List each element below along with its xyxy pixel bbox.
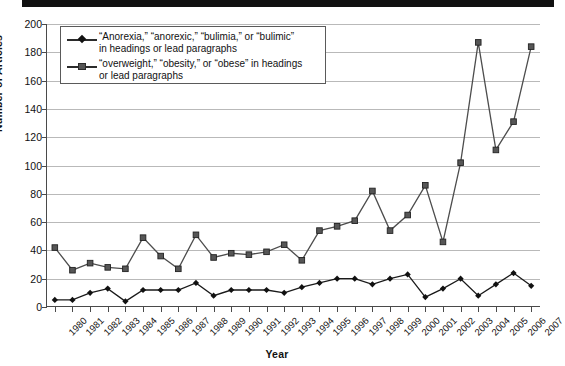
- x-tick-label: 1993: [295, 315, 318, 338]
- legend-overweight-line1: “overweight,” “obesity,” or “obese” in h…: [99, 58, 302, 70]
- gridline: [47, 194, 540, 195]
- legend-anorexia-line2: in headings or lead paragraphs: [99, 43, 294, 55]
- x-tick-label: 1982: [101, 315, 124, 338]
- gridline: [47, 137, 540, 138]
- y-tick-label: 80: [4, 188, 42, 200]
- gridline: [47, 166, 540, 167]
- y-tick-mark: [42, 194, 47, 195]
- top-black-band: [22, 0, 554, 7]
- x-tick-label: 1991: [260, 315, 283, 338]
- y-tick-label: 120: [4, 131, 42, 143]
- y-tick-label: 140: [4, 103, 42, 115]
- x-tick-label: 1988: [207, 315, 230, 338]
- x-tick-label: 2007: [542, 315, 565, 338]
- legend-entry-anorexia-text: “Anorexia,” “anorexic,” “bulimia,” or “b…: [99, 31, 294, 55]
- y-axis-title: Number of Articles: [0, 35, 4, 132]
- line-square-marker-icon: [65, 60, 99, 73]
- y-tick-label: 160: [4, 75, 42, 87]
- x-tick-label: 2004: [489, 315, 512, 338]
- gridline: [47, 24, 540, 25]
- x-tick-label: 1996: [348, 315, 371, 338]
- legend-entry-overweight-text: “overweight,” “obesity,” or “obese” in h…: [99, 58, 302, 82]
- legend-entry-anorexia: “Anorexia,” “anorexic,” “bulimia,” or “b…: [65, 31, 320, 55]
- y-axis-tick-labels: 020406080100120140160180200: [0, 24, 42, 307]
- y-tick-label: 200: [4, 18, 42, 30]
- y-tick-label: 100: [4, 160, 42, 172]
- x-axis-tick-labels: 1980198119821983198419851986198719881989…: [0, 307, 554, 349]
- legend: “Anorexia,” “anorexic,” “bulimia,” or “b…: [60, 26, 326, 84]
- gridline: [47, 279, 540, 280]
- y-tick-label: 40: [4, 244, 42, 256]
- y-tick-mark: [42, 24, 47, 25]
- gridline: [47, 109, 540, 110]
- x-tick-label: 1985: [154, 315, 177, 338]
- x-tick-label: 2005: [507, 315, 530, 338]
- legend-entry-overweight: “overweight,” “obesity,” or “obese” in h…: [65, 58, 320, 82]
- line-diamond-marker-icon: [65, 33, 99, 46]
- y-tick-mark: [42, 250, 47, 251]
- x-tick-label: 1999: [401, 315, 424, 338]
- y-tick-mark: [42, 279, 47, 280]
- x-axis-title: Year: [0, 348, 554, 360]
- y-tick-label: 60: [4, 216, 42, 228]
- y-tick-label: 180: [4, 46, 42, 58]
- y-tick-mark: [42, 137, 47, 138]
- y-tick-label: 20: [4, 273, 42, 285]
- gridline: [47, 222, 540, 223]
- y-tick-mark: [42, 109, 47, 110]
- y-tick-mark: [42, 166, 47, 167]
- x-tick-label: 2002: [454, 315, 477, 338]
- legend-overweight-line2: or lead paragraphs: [99, 70, 302, 82]
- gridline: [47, 250, 540, 251]
- y-tick-mark: [42, 81, 47, 82]
- legend-anorexia-line1: “Anorexia,” “anorexic,” “bulimia,” or “b…: [99, 31, 294, 43]
- y-tick-mark: [42, 52, 47, 53]
- x-tick-label: 1990: [242, 315, 265, 338]
- y-tick-mark: [42, 222, 47, 223]
